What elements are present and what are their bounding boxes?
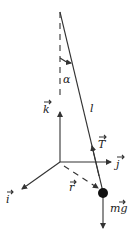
tension-label: T — [98, 138, 107, 151]
i-label: i — [6, 193, 10, 206]
r-label: r — [69, 181, 75, 194]
vector-overbars — [7, 100, 125, 204]
i-axis-arrow — [22, 162, 60, 189]
conical-pendulum-diagram: α l k j i r T mg — [0, 0, 134, 238]
k-label: k — [43, 103, 50, 116]
length-label: l — [90, 102, 94, 115]
pendulum-bob — [98, 188, 108, 198]
weight-label: mg — [110, 202, 127, 215]
alpha-label: α — [63, 73, 71, 86]
j-label: j — [113, 158, 120, 171]
angle-arc-icon — [60, 58, 71, 63]
